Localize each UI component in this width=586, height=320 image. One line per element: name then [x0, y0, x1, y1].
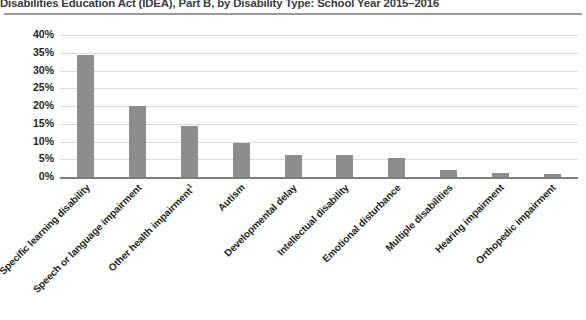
- x-axis-tick-label: Autism: [216, 182, 247, 213]
- plot-area: [60, 35, 578, 177]
- x-axis-tick-label: Speech or language impairment: [30, 182, 143, 295]
- x-axis-line: [60, 177, 578, 179]
- bar: [77, 55, 94, 177]
- y-axis-tick-label: 20%: [8, 99, 54, 111]
- x-axis-tick-label: Specific learning disability: [0, 182, 92, 277]
- gridline: [60, 71, 578, 72]
- y-axis-tick-label: 15%: [8, 117, 54, 129]
- gridline: [60, 35, 578, 36]
- y-axis-tick-label: 5%: [8, 152, 54, 164]
- title-divider: [4, 13, 582, 15]
- bar: [233, 143, 250, 177]
- bar: [388, 158, 405, 177]
- gridline: [60, 53, 578, 54]
- y-axis-tick-label: 0%: [8, 170, 54, 182]
- bar: [440, 170, 457, 177]
- x-axis-tick-label: Other health impairment1: [105, 182, 196, 273]
- chart-figure: Disabilities Education Act (IDEA), Part …: [0, 0, 586, 320]
- y-axis-tick-label: 35%: [8, 46, 54, 58]
- y-axis-tick-label: 25%: [8, 81, 54, 93]
- chart-title: Disabilities Education Act (IDEA), Part …: [0, 0, 586, 11]
- bar: [181, 126, 198, 177]
- y-axis-tick-label: 40%: [8, 28, 54, 40]
- bar: [336, 155, 353, 177]
- gridline: [60, 88, 578, 89]
- bar: [129, 106, 146, 177]
- y-axis-tick-label: 30%: [8, 64, 54, 76]
- y-axis-tick-label: 10%: [8, 135, 54, 147]
- bar: [285, 155, 302, 177]
